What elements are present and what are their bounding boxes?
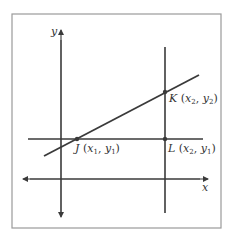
label-j: J (x1, y1) xyxy=(73,142,120,156)
label-l: L (x2, y1) xyxy=(167,142,216,156)
diagram-frame xyxy=(12,14,221,228)
label-k: K (x2, y2) xyxy=(168,92,218,106)
point-j xyxy=(75,137,79,141)
y-axis-label: y xyxy=(50,25,58,38)
coordinate-diagram: y x K (x2, y2) J (x1, y1) L (x2, y1) xyxy=(0,0,233,239)
x-axis-label: x xyxy=(202,181,209,194)
point-l xyxy=(163,137,167,141)
point-k xyxy=(163,90,167,94)
